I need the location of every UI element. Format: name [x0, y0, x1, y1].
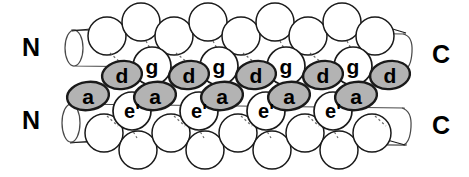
c-terminus-label-upper: C	[432, 42, 450, 67]
residue-label-d: d	[317, 64, 330, 87]
residue-label-eprime: e'	[191, 100, 207, 122]
n-terminus-label-upper: N	[22, 35, 40, 60]
residue-label-g: g	[213, 55, 226, 78]
residue-label-a: a	[82, 85, 94, 108]
figure-canvas: .ln { fill:none; stroke:#1a1a1a; stroke-…	[0, 0, 469, 177]
residue-label-g: g	[347, 55, 360, 78]
c-terminus-label-lower: C	[432, 113, 450, 138]
residue-label-d: d	[384, 64, 397, 87]
residue-label-a: a	[216, 85, 228, 108]
residue-label-g: g	[280, 55, 293, 78]
residue-label-eprime: e'	[124, 100, 140, 122]
residue-label-eprime: e'	[258, 100, 274, 122]
coiled-coil-diagram: .ln { fill:none; stroke:#1a1a1a; stroke-…	[0, 0, 469, 177]
residue-label-d: d	[250, 64, 263, 87]
residue-label-a: a	[149, 85, 161, 108]
residue-label-d: d	[116, 64, 129, 87]
residue-label-d: d	[183, 64, 196, 87]
n-terminus-label-lower: N	[22, 108, 40, 133]
residue-label-a: a	[350, 85, 362, 108]
residue-label-g: g	[146, 55, 159, 78]
residue-label-a: a	[283, 85, 295, 108]
residue-label-eprime: e'	[325, 100, 341, 122]
